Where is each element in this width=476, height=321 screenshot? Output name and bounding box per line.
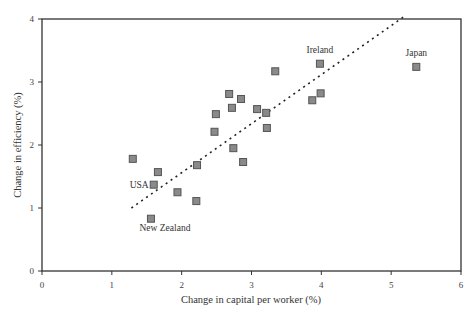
data-point [228, 104, 235, 111]
data-point [240, 159, 247, 166]
data-point [154, 169, 161, 176]
y-tick-label: 3 [30, 77, 35, 87]
point-annotation: USA [130, 180, 149, 190]
data-point [317, 90, 324, 97]
point-annotation: Japan [405, 48, 427, 58]
point-annotation: Ireland [306, 45, 333, 55]
y-tick-label: 4 [30, 14, 35, 24]
data-point [309, 97, 316, 104]
x-tick-label: 5 [389, 280, 394, 290]
data-point [316, 60, 323, 67]
y-axis-ticks: 01234 [30, 14, 43, 276]
y-tick-label: 0 [30, 266, 35, 276]
data-point [211, 128, 218, 135]
x-tick-label: 3 [249, 280, 254, 290]
data-point [147, 215, 154, 222]
data-point [254, 106, 261, 113]
y-tick-label: 2 [30, 140, 35, 150]
data-point [174, 189, 181, 196]
x-tick-label: 4 [319, 280, 324, 290]
point-annotation: New Zealand [139, 223, 190, 233]
x-axis-ticks: 0123456 [40, 271, 464, 290]
x-tick-label: 2 [179, 280, 184, 290]
data-point [263, 124, 270, 131]
data-point [212, 111, 219, 118]
data-point [413, 63, 420, 70]
y-tick-label: 1 [30, 203, 35, 213]
y-axis-label: Change in efficiency (%) [12, 92, 24, 198]
data-point [129, 155, 136, 162]
scatter-chart: 0123456 01234 USANew ZealandIrelandJapan… [0, 0, 476, 321]
data-point [226, 90, 233, 97]
data-point [263, 109, 270, 116]
x-axis-label: Change in capital per worker (%) [181, 294, 322, 306]
x-tick-label: 1 [110, 280, 115, 290]
data-point [230, 145, 237, 152]
data-point [238, 96, 245, 103]
data-point [272, 68, 279, 75]
data-points: USANew ZealandIrelandJapan [129, 45, 427, 233]
data-point [193, 198, 200, 205]
data-point [150, 181, 157, 188]
data-point [194, 162, 201, 169]
plot-frame [42, 19, 461, 271]
x-tick-label: 0 [40, 280, 45, 290]
x-tick-label: 6 [459, 280, 464, 290]
